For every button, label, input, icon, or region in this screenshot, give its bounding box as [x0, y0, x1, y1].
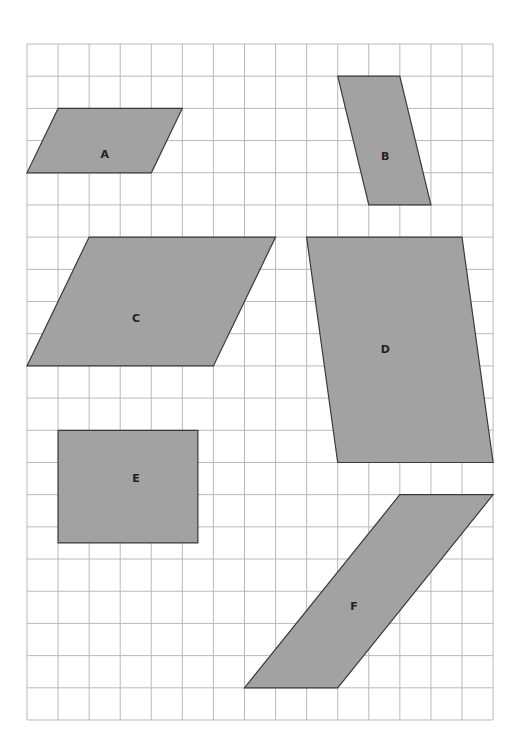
shape-label: F [350, 600, 358, 613]
shape-label: D [381, 343, 390, 356]
parallelogram-polygon [27, 237, 276, 366]
shape-label: C [132, 312, 140, 325]
shape-e: E [58, 430, 198, 543]
shape-d: D [307, 237, 494, 462]
shape-label: E [132, 472, 140, 485]
grid-diagram: ABCDEF [0, 0, 518, 753]
rectangle-polygon [58, 430, 198, 543]
shape-c: C [27, 237, 276, 366]
shapes-layer: ABCDEF [27, 76, 493, 688]
shape-a: A [27, 108, 182, 172]
parallelogram-polygon [27, 108, 182, 172]
shape-label: A [100, 148, 109, 161]
parallelogram-polygon [307, 237, 494, 462]
shape-label: B [381, 150, 389, 163]
